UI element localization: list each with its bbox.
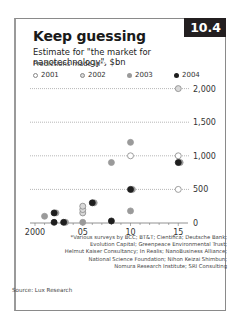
y-tick-label: 500 [193, 185, 208, 194]
y-tick-label: 1,000 [193, 152, 216, 161]
data-point-2001 [175, 186, 181, 192]
source-note: Source: Lux Research [12, 287, 72, 293]
data-point-2003 [42, 213, 48, 219]
data-point-2004 [128, 186, 134, 192]
y-tick-label: 0 [193, 219, 198, 228]
data-point-2004 [61, 219, 67, 225]
data-point-2001 [175, 153, 181, 159]
data-point-2001 [128, 153, 134, 159]
data-point-2004 [51, 219, 57, 225]
footnote: *Various surveys by BCC; BT&T; Cientific… [37, 234, 227, 270]
data-point-2003 [108, 160, 114, 166]
gridlines [30, 89, 190, 190]
data-point-2002 [80, 203, 86, 209]
data-point-2003 [128, 208, 134, 214]
data-point-2002 [175, 86, 181, 92]
data-point-2004 [89, 200, 95, 206]
data-point-2004 [175, 160, 181, 166]
data-point-2003 [128, 139, 134, 145]
scatter-plot: 05001,0001,5002,0002000051015 [0, 0, 237, 336]
data-points [42, 86, 184, 226]
data-point-2004 [51, 210, 57, 216]
data-point-2003 [80, 219, 86, 225]
data-point-2004 [108, 218, 114, 224]
y-tick-label: 2,000 [193, 85, 216, 94]
y-tick-label: 1,500 [193, 118, 216, 127]
